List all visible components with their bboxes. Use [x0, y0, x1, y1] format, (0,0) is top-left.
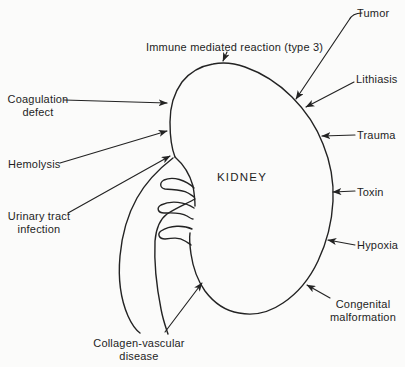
- leader-toxin: [333, 191, 355, 192]
- ureter-outer-line: [119, 158, 173, 333]
- label-coagulation-defect: Coagulation defect: [6, 93, 70, 118]
- leader-tumor: [296, 13, 362, 99]
- label-trauma: Trauma: [357, 129, 396, 142]
- leader-urinary-tract-infection: [68, 156, 170, 213]
- leader-collagen-vascular-disease: [165, 283, 202, 332]
- label-congenital-malformation: Congenital malformation: [322, 298, 404, 323]
- label-urinary-tract-infection: Urinary tract infection: [6, 210, 72, 235]
- label-collagen-vascular-disease: Collagen-vascular disease: [93, 337, 185, 362]
- label-hemolysis: Hemolysis: [8, 158, 61, 171]
- leader-congenital-malformation: [307, 285, 330, 298]
- renal-calyx-3-icon: [159, 226, 192, 245]
- kidney-cause-diagram: Immune mediated reaction (type 3) Tumor …: [0, 0, 405, 367]
- label-lithiasis: Lithiasis: [356, 73, 398, 86]
- leader-coagulation-defect: [64, 100, 167, 103]
- label-hypoxia: Hypoxia: [357, 239, 398, 252]
- label-toxin: Toxin: [357, 186, 384, 199]
- leader-trauma: [322, 135, 355, 136]
- renal-calyx-1-icon: [161, 178, 194, 197]
- label-immune-mediated-reaction: Immune mediated reaction (type 3): [146, 41, 323, 54]
- label-kidney: KIDNEY: [217, 171, 267, 184]
- ureter-inner-line: [155, 199, 195, 334]
- leader-lithiasis: [306, 82, 354, 107]
- label-tumor: Tumor: [357, 7, 389, 20]
- leader-hemolysis: [60, 131, 167, 163]
- leader-hypoxia: [328, 240, 355, 245]
